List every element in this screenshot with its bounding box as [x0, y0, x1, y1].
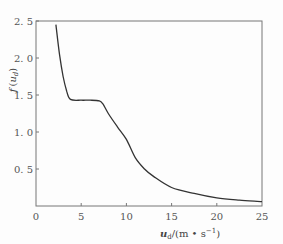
x-tick-label: 15 — [165, 211, 178, 222]
y-tick-label: 2. 5 — [14, 16, 33, 27]
x-tick-label: 0 — [33, 211, 39, 222]
x-tick-label: 10 — [120, 211, 133, 222]
y-tick-label: 2. 0 — [14, 53, 33, 64]
x-tick-label: 25 — [256, 211, 269, 222]
plot-frame — [36, 21, 262, 206]
x-axis-label: ud/(m • s−1) — [160, 227, 220, 241]
x-label-exp: −1 — [206, 227, 216, 235]
chart-figure: 0. 51. 01. 52. 02. 5 0510152025 f(ud) ud… — [0, 0, 283, 244]
y-tick-label: 0. 5 — [14, 164, 33, 175]
x-tick-label: 20 — [210, 211, 223, 222]
y-axis-ticks: 0. 51. 01. 52. 02. 5 — [14, 16, 39, 175]
x-label-close: ) — [216, 228, 220, 239]
x-label-u: u — [160, 228, 167, 239]
chart-svg: 0. 51. 01. 52. 02. 5 0510152025 f(ud) ud… — [0, 0, 283, 244]
x-tick-label: 5 — [78, 211, 84, 222]
y-tick-label: 1. 0 — [14, 127, 33, 138]
x-label-unit: /(m • s — [172, 228, 206, 239]
y-label-close: ) — [7, 68, 18, 72]
data-line — [56, 25, 262, 202]
